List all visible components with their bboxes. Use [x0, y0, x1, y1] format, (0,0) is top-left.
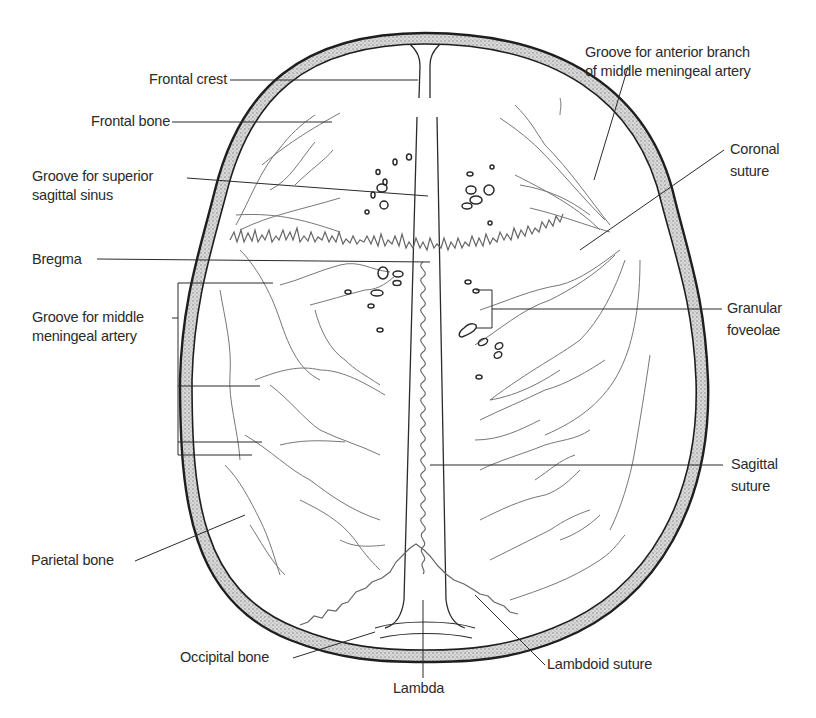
skull-drawing — [0, 0, 816, 718]
label-sagittal-suture-line1: Sagittal — [731, 455, 778, 474]
label-parietal-bone: Parietal bone — [31, 551, 114, 570]
label-lambda: Lambda — [393, 679, 444, 698]
label-granular-foveolae-line1: Granular — [727, 299, 782, 318]
label-groove-middle-meningeal-artery-line2: meningeal artery — [32, 327, 137, 346]
label-occipital-bone: Occipital bone — [180, 648, 269, 667]
label-groove-superior-sagittal-sinus-line2: sagittal sinus — [32, 186, 113, 205]
label-frontal-crest: Frontal crest — [130, 70, 227, 89]
skull-cap-diagram: Frontal crest Frontal bone Groove for su… — [0, 0, 816, 718]
label-coronal-suture-line2: suture — [730, 162, 769, 181]
label-lambdoid-suture: Lambdoid suture — [547, 655, 652, 674]
label-groove-anterior-branch-line2: of middle meningeal artery — [585, 62, 751, 81]
label-groove-superior-sagittal-sinus-line1: Groove for superior — [32, 167, 153, 186]
label-frontal-bone: Frontal bone — [60, 112, 170, 131]
label-groove-middle-meningeal-artery-line1: Groove for middle — [32, 308, 144, 327]
label-sagittal-suture-line2: suture — [731, 477, 770, 496]
label-granular-foveolae-line2: foveolae — [727, 321, 780, 340]
label-bregma: Bregma — [32, 250, 82, 269]
label-groove-anterior-branch-line1: Groove for anterior branch — [585, 43, 750, 62]
label-coronal-suture-line1: Coronal — [730, 140, 779, 159]
